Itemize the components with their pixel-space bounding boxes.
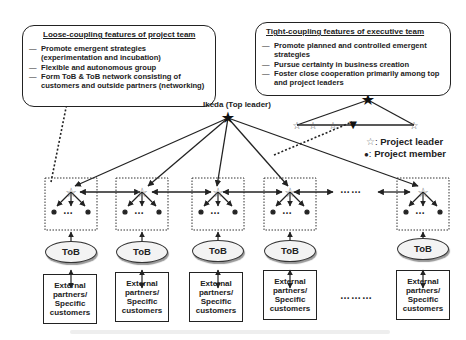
legend-member: ●: Project member (364, 148, 446, 161)
customer-row-ellipsis: ……… (340, 290, 373, 301)
external-partners-box: External partners/ Specific customers (115, 272, 169, 322)
top-leader-label: Ikeda (Top leader) (203, 100, 271, 109)
svg-text:☆: ☆ (417, 185, 429, 200)
loose-coupling-title: Loose-coupling features of project team (43, 30, 209, 39)
legend-leader-label: Project leader (380, 136, 443, 147)
leader-star-icon: ☆ (366, 136, 375, 147)
external-partners-box: External partners/ Specific customers (189, 272, 243, 322)
external-partners-box: External partners/ Specific customers (43, 274, 97, 324)
svg-text:☆: ☆ (293, 120, 302, 131)
tight-coupling-box: Tight-coupling features of executive tea… (255, 22, 451, 96)
svg-text:☆: ☆ (284, 185, 296, 200)
tight-item-2: Pursue certainty in business creation (262, 60, 444, 69)
tight-item-3: Foster close cooperation primarily among… (262, 69, 444, 87)
loose-item-1: Promote emergent strategies (experimenta… (29, 44, 209, 62)
svg-text:★: ★ (221, 108, 235, 127)
tob-node: ToB (45, 241, 97, 263)
svg-text:☆: ☆ (136, 185, 148, 200)
external-partners-label: External partners/ Specific customers (44, 281, 96, 317)
external-partners-label: External partners/ Specific customers (397, 277, 449, 313)
svg-text:☆: ☆ (212, 185, 224, 200)
svg-text:☆: ☆ (309, 120, 318, 131)
external-partners-box: External partners/ Specific customers (263, 270, 317, 320)
member-ellipsis: … (63, 205, 74, 216)
tight-coupling-title: Tight-coupling features of executive tea… (266, 27, 444, 36)
faint-caption (70, 330, 390, 334)
external-partners-label: External partners/ Specific customers (116, 279, 168, 315)
loose-item-2: Flexible and autonomous group (29, 63, 209, 72)
tob-node: ToB (397, 238, 449, 260)
member-ellipsis: … (282, 205, 293, 216)
member-ellipsis: … (134, 205, 145, 216)
member-ellipsis: … (210, 205, 221, 216)
svg-text:☆: ☆ (329, 120, 338, 131)
external-partners-box: External partners/ Specific customers (396, 270, 450, 320)
tight-item-1: Promote planned and controlled emergent … (262, 41, 444, 59)
legend: ☆: Project leader ●: Project member (366, 136, 446, 161)
svg-text:☆: ☆ (410, 120, 419, 131)
tob-node: ToB (116, 241, 168, 263)
legend-leader: ☆: Project leader (366, 136, 446, 148)
loose-item-3: Form ToB & ToB network consisting of cus… (29, 72, 209, 90)
legend-member-label: Project member (374, 148, 446, 159)
member-ellipsis: … (415, 205, 426, 216)
svg-text:▼: ▼ (349, 119, 357, 130)
svg-text:☆: ☆ (65, 185, 77, 200)
external-partners-label: External partners/ Specific customers (190, 279, 242, 315)
tob-node: ToB (264, 240, 316, 262)
external-partners-label: External partners/ Specific customers (264, 277, 316, 313)
tob-node: ToB (192, 240, 244, 262)
team-row-ellipsis: …… (340, 184, 362, 195)
loose-coupling-box: Loose-coupling features of project team … (22, 25, 216, 107)
